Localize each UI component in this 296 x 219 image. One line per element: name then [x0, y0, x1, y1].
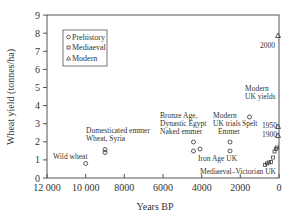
- point-circle-icon: [228, 149, 232, 153]
- annotation-iron-age-uk: Iron Age UK: [198, 154, 238, 163]
- x-tick-labels: 12 000 10 000 8000 6000 4000 2000 0: [33, 182, 281, 193]
- y-tick-8: 8: [35, 28, 40, 39]
- legend: Prehistory Mediaeval Modern: [63, 30, 107, 66]
- x-tick-12000: 12 000: [33, 182, 61, 193]
- y-tick-7: 7: [35, 46, 40, 57]
- x-tick-4000: 4000: [192, 182, 212, 193]
- annotation-modern-uk-yields-2: UK yields: [245, 92, 276, 101]
- point-circle-icon: [192, 140, 196, 144]
- y-tick-labels: 0 1 2 3 4 5 6 7 8 9: [35, 10, 40, 184]
- y-axis-title: Wheat yield (tonnes/ha): [5, 49, 17, 145]
- y-tick-3: 3: [35, 118, 40, 129]
- annotation-wild-wheat: Wild wheat: [53, 152, 88, 161]
- series-mediaeval: [264, 146, 279, 167]
- x-tick-6000: 6000: [153, 182, 173, 193]
- annotation-naked-emmer: Naked emmer: [160, 127, 203, 136]
- point-circle-icon: [228, 140, 232, 144]
- wheat-yield-chart: 0 1 2 3 4 5 6 7 8 9 12 000 10 000 8000 6…: [0, 0, 296, 219]
- y-tick-5: 5: [35, 82, 40, 93]
- legend-prehistory: Prehistory: [72, 33, 105, 42]
- annotation-spelt: Spelt: [242, 119, 258, 128]
- annotation-2000: 2000: [260, 41, 275, 50]
- legend-mediaeval: Mediaeval: [72, 43, 107, 52]
- y-axis: [43, 15, 47, 178]
- point-triangle-icon: [276, 33, 281, 38]
- legend-modern: Modern: [72, 54, 97, 63]
- x-tick-10000: 10 000: [72, 182, 100, 193]
- x-tick-2000: 2000: [230, 182, 250, 193]
- point-circle-icon: [84, 162, 88, 166]
- annotation-wheat-syria: Wheat, Syria: [86, 134, 126, 143]
- y-tick-1: 1: [35, 154, 40, 165]
- x-tick-8000: 8000: [114, 182, 134, 193]
- point-square-icon: [272, 156, 275, 159]
- point-circle-icon: [192, 149, 196, 153]
- annotation-1950: 1950: [262, 121, 277, 130]
- x-tick-0: 0: [277, 182, 282, 193]
- y-tick-4: 4: [35, 100, 40, 111]
- annotation-1900: 1900: [262, 130, 277, 139]
- y-tick-2: 2: [35, 136, 40, 147]
- annotation-emmer: Emmer: [218, 127, 241, 136]
- y-tick-6: 6: [35, 64, 40, 75]
- x-axis-title: Years BP: [136, 201, 173, 212]
- annotation-mediaeval-victorian: Mediaeval–Victorian UK: [200, 167, 277, 176]
- y-tick-9: 9: [35, 10, 40, 21]
- point-circle-icon: [198, 147, 202, 151]
